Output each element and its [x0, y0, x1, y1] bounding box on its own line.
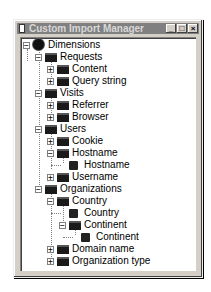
folder-icon: [57, 77, 69, 86]
tree-item-label: Visits: [60, 87, 84, 99]
folder-icon: [45, 185, 57, 194]
window-title: Custom Import Manager: [29, 23, 144, 34]
tree-item-label: Continent: [96, 231, 139, 243]
expand-icon[interactable]: +: [47, 66, 54, 73]
folder-icon: [45, 89, 57, 98]
tree-line: [51, 165, 61, 166]
tree-item[interactable]: +Username: [20, 171, 196, 183]
tree-item[interactable]: +Content: [20, 63, 196, 75]
collapse-icon[interactable]: −: [47, 198, 54, 205]
tree-item-label: Username: [72, 171, 118, 183]
custom-import-manager-window: Custom Import Manager _ □ × −Dimensions−…: [13, 19, 203, 278]
expand-icon[interactable]: +: [47, 102, 54, 109]
close-button[interactable]: ×: [188, 24, 198, 33]
leaf-icon: [81, 233, 90, 242]
collapse-icon[interactable]: −: [35, 90, 42, 97]
tree-item-label: Organizations: [60, 183, 122, 195]
folder-icon: [57, 101, 69, 110]
tree-item[interactable]: −Country: [20, 195, 196, 207]
tree-item-label: Content: [72, 63, 107, 75]
tree-item[interactable]: +Query string: [20, 75, 196, 87]
tree-item-label: Domain name: [72, 243, 134, 255]
tree-item[interactable]: −Organizations: [20, 183, 196, 195]
tree-item[interactable]: +Organization type: [20, 255, 196, 267]
tree-item[interactable]: −Visits: [20, 87, 196, 99]
collapse-icon[interactable]: −: [59, 222, 66, 229]
collapse-icon[interactable]: −: [35, 54, 42, 61]
folder-icon: [57, 65, 69, 74]
expand-icon[interactable]: +: [47, 174, 54, 181]
tree-item[interactable]: +Domain name: [20, 243, 196, 255]
expand-icon[interactable]: +: [47, 258, 54, 265]
tree-item-label: Browser: [72, 111, 109, 123]
leaf-icon: [69, 161, 78, 170]
tree-item[interactable]: +Cookie: [20, 135, 196, 147]
tree-item[interactable]: −Continent: [20, 219, 196, 231]
tree-item-label: Query string: [72, 75, 126, 87]
tree-item-label: Requests: [60, 51, 102, 63]
tree-item[interactable]: Hostname: [20, 159, 196, 171]
tree-item-label: Country: [72, 195, 107, 207]
expand-icon[interactable]: +: [47, 246, 54, 253]
minimize-button[interactable]: _: [166, 24, 176, 33]
folder-icon: [57, 149, 69, 158]
expand-icon[interactable]: +: [47, 138, 54, 145]
tree-item-label: Country: [84, 207, 119, 219]
tree-item-label: Dimensions: [48, 39, 100, 51]
folder-icon: [57, 245, 69, 254]
tree-item[interactable]: +Referrer: [20, 99, 196, 111]
tree-item[interactable]: Continent: [20, 231, 196, 243]
tree-item-label: Cookie: [72, 135, 103, 147]
maximize-button[interactable]: □: [177, 24, 187, 33]
tree-item[interactable]: −Hostname: [20, 147, 196, 159]
tree-item-label: Hostname: [84, 159, 130, 171]
tree-item[interactable]: −Requests: [20, 51, 196, 63]
app-icon: [19, 24, 25, 33]
tree-item-label: Continent: [84, 219, 127, 231]
collapse-icon[interactable]: −: [23, 42, 30, 49]
gear-icon: [33, 39, 44, 50]
collapse-icon[interactable]: −: [35, 126, 42, 133]
tree-item-label: Users: [60, 123, 86, 135]
tree-item-label: Organization type: [72, 255, 150, 267]
folder-icon: [57, 173, 69, 182]
folder-icon: [57, 113, 69, 122]
leaf-icon: [69, 209, 78, 218]
tree-item-label: Hostname: [72, 147, 118, 159]
tree-item[interactable]: −Users: [20, 123, 196, 135]
expand-icon[interactable]: +: [47, 78, 54, 85]
title-bar[interactable]: Custom Import Manager _ □ ×: [17, 23, 199, 34]
tree-item-label: Referrer: [72, 99, 109, 111]
folder-icon: [57, 257, 69, 266]
folder-icon: [45, 53, 57, 62]
folder-icon: [57, 137, 69, 146]
tree-line: [51, 213, 61, 214]
collapse-icon[interactable]: −: [35, 186, 42, 193]
collapse-icon[interactable]: −: [47, 150, 54, 157]
tree-line: [63, 237, 73, 238]
folder-icon: [69, 221, 81, 230]
expand-icon[interactable]: +: [47, 114, 54, 121]
folder-icon: [45, 125, 57, 134]
tree-item[interactable]: −Dimensions: [20, 39, 196, 51]
dimension-tree[interactable]: −Dimensions−Requests+Content+Query strin…: [20, 37, 196, 271]
folder-icon: [57, 197, 69, 206]
tree-item[interactable]: +Browser: [20, 111, 196, 123]
tree-item[interactable]: Country: [20, 207, 196, 219]
